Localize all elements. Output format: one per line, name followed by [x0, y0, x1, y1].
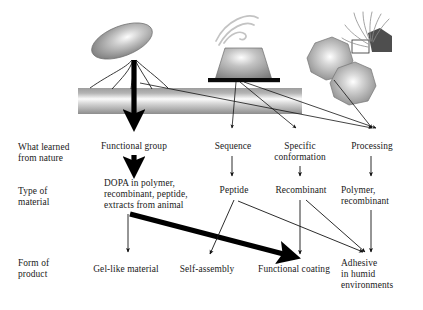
- row-label-type-of-material: Type of material: [18, 186, 98, 208]
- diagram-canvas: What learned from nature Type of materia…: [0, 0, 423, 310]
- node-functional-group: Functional group: [88, 141, 180, 152]
- node-functional-coating: Functional coating: [244, 264, 344, 275]
- mussel-shell-icon: [87, 16, 158, 67]
- node-sequence: Sequence: [204, 141, 262, 152]
- substrate-cylinder-2: [190, 88, 302, 114]
- barnacle-body-icon: [215, 48, 272, 80]
- worm-tube-icon: [368, 28, 392, 52]
- arrow-recombinant-to-adhesive: [306, 200, 365, 252]
- barnacle-cirri-icon: [216, 16, 258, 45]
- node-specific-conformation: Specific conformation: [266, 141, 334, 163]
- arrow-dopa-to-functional-coating: [130, 214, 295, 257]
- node-processing: Processing: [341, 141, 403, 152]
- row1-to-row2-connectors: [134, 155, 371, 176]
- byssal-threads: [90, 60, 168, 89]
- node-peptide: Peptide: [208, 185, 260, 196]
- row-label-what-learned: What learned from nature: [18, 142, 98, 164]
- barnacle-group: [190, 16, 302, 114]
- barnacle-base-plate: [208, 78, 280, 82]
- sandcastle-worm-group: [307, 12, 392, 105]
- node-self-assembly: Self-assembly: [168, 264, 246, 275]
- node-recombinant: Recombinant: [264, 185, 338, 196]
- node-gel-like-material: Gel-like material: [80, 264, 172, 275]
- node-polymer-recombinant: Polymer, recombinant: [341, 185, 411, 207]
- node-adhesive-humid: Adhesive in humid environments: [341, 258, 419, 292]
